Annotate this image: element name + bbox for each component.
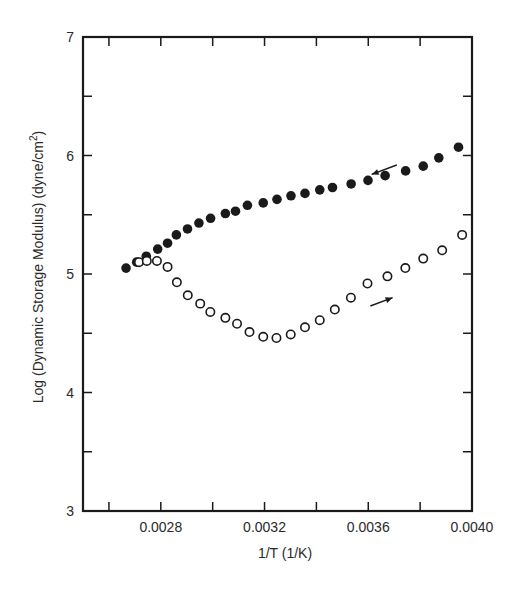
data-point-open <box>419 254 427 262</box>
tick-labels: 0.00280.00320.00360.004034567 <box>66 29 493 535</box>
data-point-open <box>221 314 229 322</box>
data-point-filled <box>315 185 325 195</box>
x-tick-label: 0.0036 <box>347 519 390 535</box>
axis-ticks <box>83 37 472 511</box>
data-point-filled <box>153 244 163 254</box>
data-point-open <box>143 257 151 265</box>
y-tick-label: 5 <box>66 266 74 282</box>
data-point-open <box>173 278 181 286</box>
data-point-open <box>206 308 214 316</box>
data-point-open <box>233 320 241 328</box>
y-tick-label: 6 <box>66 148 74 164</box>
arrow-right-icon <box>385 297 393 303</box>
data-point-filled <box>121 263 131 273</box>
series-open-circles <box>135 231 467 342</box>
plot-border <box>83 37 472 511</box>
data-point-filled <box>454 142 464 152</box>
data-point-filled <box>300 189 310 199</box>
data-point-open <box>163 263 171 271</box>
data-point-filled <box>258 198 268 208</box>
data-point-open <box>363 279 371 287</box>
data-point-filled <box>363 176 373 186</box>
data-point-open <box>458 231 466 239</box>
x-tick-label: 0.0032 <box>243 519 286 535</box>
series-filled-circles <box>121 142 463 272</box>
y-axis-label-main: Log (Dynamic Storage Modulus) (dyne/cm <box>30 141 46 403</box>
chart: 0.00280.00320.00360.004034567 1/T (1/K) … <box>0 0 529 600</box>
data-point-filled <box>286 191 296 201</box>
x-axis-label: 1/T (1/K) <box>258 545 312 561</box>
data-point-open <box>196 299 204 307</box>
data-point-filled <box>434 153 444 163</box>
data-point-open <box>383 272 391 280</box>
data-point-open <box>347 294 355 302</box>
data-point-filled <box>328 183 338 193</box>
arrow-left-icon <box>372 169 380 175</box>
data-point-filled <box>231 206 241 216</box>
data-point-open <box>401 264 409 272</box>
data-point-filled <box>194 218 204 228</box>
data-point-open <box>438 246 446 254</box>
data-point-open <box>153 257 161 265</box>
data-point-filled <box>183 224 193 234</box>
x-tick-label: 0.0040 <box>451 519 494 535</box>
data-point-open <box>184 291 192 299</box>
data-point-filled <box>418 161 428 171</box>
data-point-open <box>272 334 280 342</box>
y-tick-label: 4 <box>66 385 74 401</box>
y-axis-label-end: ) <box>30 131 46 136</box>
direction-arrows <box>370 165 396 306</box>
data-point-open <box>316 316 324 324</box>
data-point-open <box>287 330 295 338</box>
x-tick-label: 0.0028 <box>139 519 182 535</box>
data-point-filled <box>221 209 231 219</box>
data-point-filled <box>206 214 216 224</box>
data-point-filled <box>172 230 182 240</box>
y-tick-label: 7 <box>66 29 74 45</box>
data-point-filled <box>401 166 411 176</box>
data-point-filled <box>163 238 173 248</box>
y-axis-label: Log (Dynamic Storage Modulus) (dyne/cm2) <box>28 131 46 403</box>
data-point-open <box>301 323 309 331</box>
data-point-open <box>259 333 267 341</box>
data-point-open <box>331 305 339 313</box>
data-point-filled <box>380 171 390 181</box>
data-point-filled <box>346 179 356 189</box>
data-point-filled <box>243 200 253 210</box>
y-tick-label: 3 <box>66 503 74 519</box>
data-point-filled <box>272 195 282 205</box>
plot-frame <box>83 37 472 511</box>
data-point-open <box>245 328 253 336</box>
